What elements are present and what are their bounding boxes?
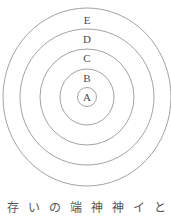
caption-char: と [153,198,167,215]
ring-label-e: E [84,14,91,26]
caption-char: 端 [69,198,83,215]
caption-char: の [48,198,62,215]
ring-label-b: B [83,72,90,84]
caption-char: イ [132,198,146,215]
caption-char: 神 [90,198,104,215]
ring-label-a: A [83,91,91,103]
ring-label-d: D [83,33,91,45]
concentric-circles-diagram: E D C B A [0,0,171,195]
caption-char: い [27,198,41,215]
ring-label-c: C [83,52,90,64]
caption-text: 存 い の 端 神 神 イ と [6,198,167,214]
caption-char: 存 [6,198,20,215]
caption-char: 神 [111,198,125,215]
